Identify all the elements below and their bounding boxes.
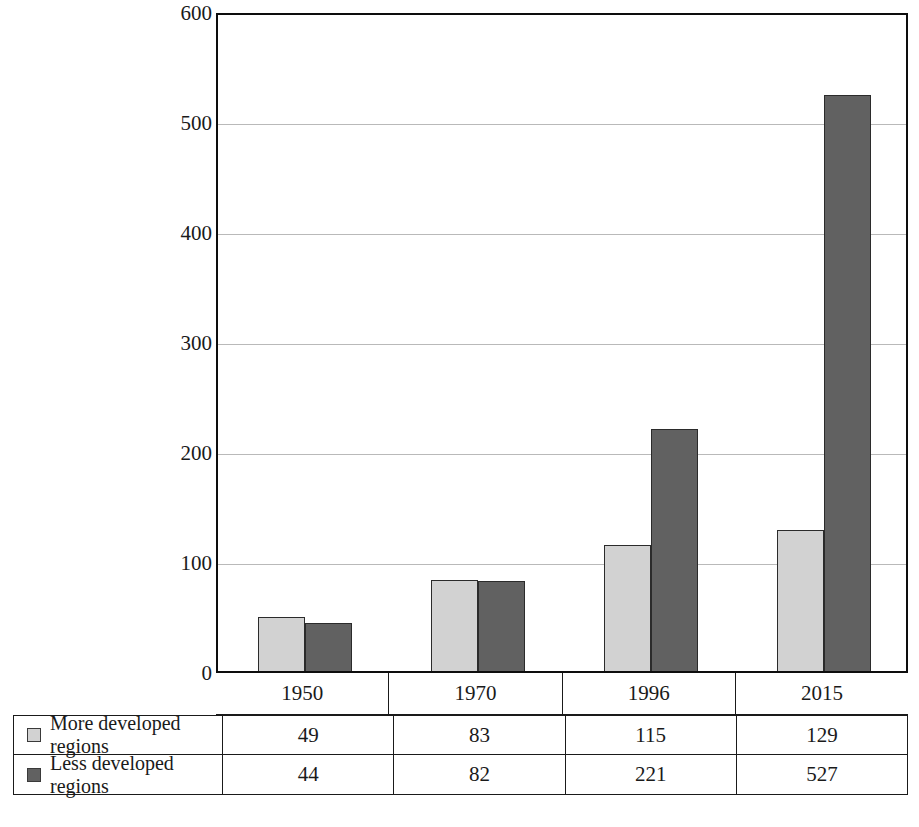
table-row: Less developed regions 44 82 221 527 [14,755,907,794]
bar-group-2015 [737,15,910,671]
year-cell-1950: 1950 [216,673,389,714]
year-cell-1970: 1970 [389,673,562,714]
bar-group-1970 [391,15,564,671]
y-tick-400: 400 [150,223,212,244]
y-tick-200: 200 [150,443,212,464]
grouped-bar-chart-figure: Number with population >1 million 600 50… [0,0,919,827]
light-gray-swatch-icon [27,728,41,742]
bar-more-developed-1950 [258,617,305,671]
year-cell-1996: 1996 [563,673,736,714]
legend-label-less-developed: Less developed regions [14,755,223,794]
dark-gray-swatch-icon [27,768,41,782]
y-tick-600: 600 [150,3,212,24]
value-less-developed-1970: 82 [394,755,565,794]
table-row: More developed regions 49 83 115 129 [14,716,907,755]
bar-more-developed-2015 [777,530,824,671]
year-cell-2015: 2015 [736,673,908,714]
plot-area [216,13,908,673]
value-more-developed-1950: 49 [223,716,394,754]
bar-group-1950 [218,15,391,671]
value-more-developed-2015: 129 [737,716,907,754]
bar-group-1996 [564,15,737,671]
bar-more-developed-1970 [431,580,478,671]
legend-data-table: More developed regions 49 83 115 129 Les… [13,715,908,795]
value-less-developed-2015: 527 [737,755,907,794]
bar-less-developed-1950 [305,623,352,671]
bars-layer [218,15,906,671]
bar-less-developed-2015 [824,95,871,671]
value-more-developed-1996: 115 [566,716,737,754]
bar-less-developed-1970 [478,581,525,671]
bar-more-developed-1996 [604,545,651,671]
y-tick-100: 100 [150,553,212,574]
value-less-developed-1996: 221 [566,755,737,794]
y-axis-tick-labels: 600 500 400 300 200 100 0 [150,0,212,674]
y-tick-300: 300 [150,333,212,354]
legend-label-more-developed: More developed regions [14,716,223,754]
bar-less-developed-1996 [651,429,698,671]
y-tick-0: 0 [150,663,212,684]
value-more-developed-1970: 83 [394,716,565,754]
y-tick-500: 500 [150,113,212,134]
x-axis-category-header: 1950 1970 1996 2015 [216,673,908,715]
value-less-developed-1950: 44 [223,755,394,794]
legend-label-text: Less developed regions [50,752,222,798]
